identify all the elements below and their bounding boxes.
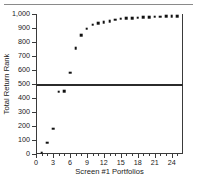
- data-point: [74, 47, 77, 50]
- y-tick-label: 200: [18, 122, 30, 129]
- y-tick-label: 500: [18, 80, 30, 87]
- data-point: [40, 151, 43, 154]
- x-tick-minor: [160, 154, 161, 156]
- data-point: [165, 15, 168, 18]
- x-tick-label: 15: [117, 159, 125, 166]
- data-point: [52, 128, 55, 131]
- y-tick-label: 800: [18, 38, 30, 45]
- y-tick: [32, 56, 36, 57]
- x-tick: [121, 154, 122, 158]
- data-point: [131, 17, 134, 20]
- data-point: [103, 21, 106, 24]
- x-tick-label: 21: [151, 159, 159, 166]
- x-tick: [70, 154, 71, 158]
- x-tick-minor: [177, 154, 178, 156]
- y-tick-label: 0: [26, 150, 30, 157]
- y-tick-label: 100: [18, 136, 30, 143]
- x-tick-minor: [93, 154, 94, 156]
- y-tick: [32, 126, 36, 127]
- y-tick: [32, 28, 36, 29]
- figure-container: 01002003004005006007008009001,000 036912…: [0, 0, 197, 184]
- data-point: [170, 15, 173, 18]
- y-tick-label: 600: [18, 66, 30, 73]
- x-tick-minor: [76, 154, 77, 156]
- data-point: [91, 23, 94, 26]
- x-tick: [36, 154, 37, 158]
- data-point: [176, 15, 179, 18]
- x-tick-label: 9: [85, 159, 89, 166]
- x-tick-minor: [115, 154, 116, 156]
- y-axis-title: Total Return Rank: [3, 24, 11, 144]
- x-tick: [104, 154, 105, 158]
- reference-line-500: [36, 84, 183, 86]
- x-tick: [172, 154, 173, 158]
- data-point: [159, 15, 162, 18]
- page-separator-rule: [4, 4, 193, 5]
- y-tick-label: 900: [18, 24, 30, 31]
- x-axis-title: Screen #1 Portfolios: [36, 168, 183, 176]
- x-tick-minor: [132, 154, 133, 156]
- x-tick-label: 12: [100, 159, 108, 166]
- x-tick: [155, 154, 156, 158]
- x-tick-label: 3: [51, 159, 55, 166]
- data-point: [153, 16, 156, 19]
- y-tick-label: 1,000: [12, 10, 30, 17]
- y-tick: [32, 42, 36, 43]
- x-tick: [87, 154, 88, 158]
- data-point: [97, 22, 100, 25]
- x-tick-label: 24: [168, 159, 176, 166]
- y-tick-label: 700: [18, 52, 30, 59]
- data-point: [120, 18, 123, 21]
- x-tick-minor: [42, 154, 43, 156]
- x-tick-label: 0: [34, 159, 38, 166]
- data-point: [86, 27, 89, 30]
- x-tick-minor: [110, 154, 111, 156]
- x-tick: [53, 154, 54, 158]
- data-point: [136, 16, 139, 19]
- x-tick-minor: [149, 154, 150, 156]
- x-tick-label: 6: [68, 159, 72, 166]
- data-point: [63, 90, 66, 93]
- x-tick-minor: [59, 154, 60, 156]
- x-tick: [138, 154, 139, 158]
- x-tick-minor: [98, 154, 99, 156]
- data-point: [80, 34, 83, 37]
- y-tick-label: 300: [18, 108, 30, 115]
- data-point: [57, 90, 60, 93]
- data-point: [114, 18, 117, 21]
- plot-area: 01002003004005006007008009001,000 036912…: [36, 14, 183, 154]
- data-point: [148, 16, 151, 19]
- y-tick: [32, 98, 36, 99]
- y-tick: [32, 112, 36, 113]
- y-tick: [32, 14, 36, 15]
- data-point: [142, 16, 145, 19]
- x-tick-minor: [64, 154, 65, 156]
- x-tick-minor: [47, 154, 48, 156]
- y-tick: [32, 140, 36, 141]
- y-tick-label: 400: [18, 94, 30, 101]
- y-tick: [32, 70, 36, 71]
- data-point: [46, 142, 49, 145]
- data-point: [108, 20, 111, 23]
- data-point: [69, 72, 72, 75]
- x-tick-minor: [81, 154, 82, 156]
- x-tick-minor: [126, 154, 127, 156]
- x-tick-label: 18: [134, 159, 142, 166]
- data-point: [125, 17, 128, 20]
- x-tick-minor: [143, 154, 144, 156]
- x-tick-minor: [166, 154, 167, 156]
